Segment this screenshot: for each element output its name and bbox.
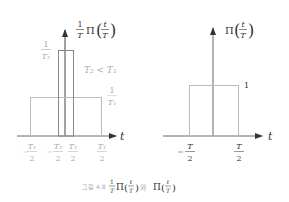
svg-text:T₁: T₁	[98, 142, 107, 151]
right-tick-2: T 2	[234, 142, 244, 163]
svg-text:T: T	[240, 31, 246, 40]
svg-text:T: T	[236, 142, 242, 151]
svg-text:): )	[172, 182, 176, 193]
svg-text:t: t	[130, 178, 133, 185]
svg-text:Π: Π	[116, 182, 124, 192]
wide-rect	[31, 98, 102, 137]
svg-text:(: (	[161, 182, 165, 193]
svg-text:T: T	[102, 31, 108, 40]
svg-text:T₁: T₁	[28, 142, 37, 151]
left-title: 1 T Π ( t T )	[76, 20, 116, 40]
svg-text:): )	[248, 21, 254, 40]
svg-text:T₂: T₂	[42, 52, 51, 61]
svg-text:t: t	[241, 20, 245, 29]
svg-text:T: T	[187, 142, 193, 151]
svg-text:): )	[110, 21, 116, 40]
svg-text:T: T	[110, 187, 115, 194]
svg-text:1: 1	[109, 86, 114, 95]
svg-text:t: t	[167, 178, 170, 185]
left-tick-3: T₂ 2	[68, 142, 78, 163]
svg-text:1: 1	[110, 178, 114, 185]
svg-text:그림 4.8: 그림 4.8	[82, 183, 106, 190]
svg-text:(: (	[234, 21, 240, 40]
svg-text:2: 2	[55, 154, 60, 163]
right-title: Π ( t T )	[225, 20, 254, 40]
svg-text:T₂: T₂	[54, 142, 63, 151]
left-axis-label: t	[120, 130, 125, 143]
level-label: 1	[244, 81, 249, 90]
svg-text:2: 2	[187, 154, 192, 163]
svg-text:T: T	[166, 187, 171, 194]
right-plot: Π ( t T ) 1 t T 2 T 2	[163, 20, 273, 163]
left-plot: 1 T Π ( t T ) 1 T₂ T₂ < T₁ 1 T₁ t T₁	[17, 20, 125, 163]
tall-level-label: 1 T₂	[41, 40, 51, 61]
svg-text:와: 와	[140, 183, 147, 192]
figure-canvas: 1 T Π ( t T ) 1 T₂ T₂ < T₁ 1 T₁ t T₁	[0, 0, 289, 202]
svg-text:2: 2	[99, 154, 104, 163]
right-axis-label: t	[268, 130, 273, 143]
svg-text:(: (	[96, 21, 102, 40]
svg-text:2: 2	[236, 154, 241, 163]
svg-text:Π: Π	[86, 25, 95, 36]
wide-level-label: 1 T₁	[107, 86, 117, 107]
svg-text:Π: Π	[225, 25, 234, 36]
svg-text:T₁: T₁	[108, 98, 117, 107]
svg-text:(: (	[124, 182, 128, 193]
figure-caption: 그림 4.8 1 T Π ( t T ) 와 Π ( t T )	[82, 178, 176, 194]
svg-text:2: 2	[29, 154, 34, 163]
condition-label: T₂ < T₁	[84, 65, 116, 75]
svg-text:T: T	[129, 187, 134, 194]
svg-text:): )	[135, 182, 139, 193]
svg-text:1: 1	[77, 20, 82, 29]
left-tick-4: T₁ 2	[97, 142, 107, 163]
svg-text:T₂: T₂	[69, 142, 78, 151]
svg-text:T: T	[77, 31, 83, 40]
narrow-rect	[59, 51, 74, 137]
svg-text:t: t	[103, 20, 107, 29]
svg-text:1: 1	[43, 40, 48, 49]
svg-text:Π: Π	[153, 182, 161, 192]
right-tick-1: T 2	[178, 142, 195, 163]
left-tick-1: T₁ 2	[23, 142, 37, 163]
unit-rect	[190, 86, 239, 137]
left-tick-2: T₂ 2	[47, 142, 63, 163]
svg-text:2: 2	[70, 154, 75, 163]
